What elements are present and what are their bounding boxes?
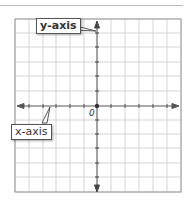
y-axis-label: y-axis bbox=[36, 18, 81, 34]
x-axis-label-text: x-axis bbox=[15, 125, 48, 138]
x-axis-label: x-axis bbox=[11, 124, 52, 140]
coordinate-plane bbox=[0, 0, 190, 205]
origin-label: 0 bbox=[89, 108, 95, 118]
origin-point bbox=[95, 104, 99, 108]
callout-pointers bbox=[42, 25, 96, 123]
y-axis-label-text: y-axis bbox=[40, 19, 77, 32]
